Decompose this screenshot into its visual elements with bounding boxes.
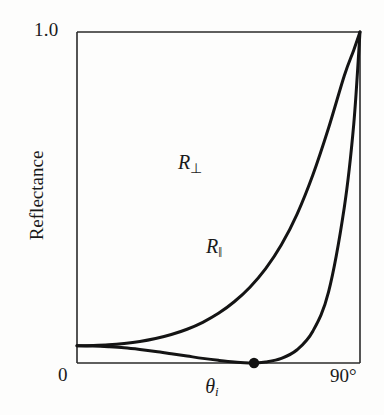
y-axis-tick-top: 1.0 <box>34 20 58 39</box>
y-axis-label: Reflectance <box>27 131 46 261</box>
r-par-subscript: ‖ <box>218 245 222 260</box>
r-perp-symbol: R <box>178 151 190 173</box>
curve-label-r-perpendicular: R⊥ <box>178 152 202 176</box>
x-axis-tick-right: 90° <box>330 366 357 385</box>
y-axis-tick-bottom: 0 <box>58 365 68 384</box>
curve-r-perpendicular <box>77 32 360 346</box>
r-perp-subscript: ⊥ <box>190 161 202 176</box>
plot-canvas <box>0 0 384 415</box>
x-axis-label: θi <box>182 376 242 398</box>
curve-label-r-parallel: R‖ <box>206 236 222 260</box>
reflectance-figure: 1.0 0 90° Reflectance θi R⊥ R‖ <box>0 0 384 415</box>
x-axis-label-subscript: i <box>215 384 219 399</box>
brewster-angle-marker <box>249 358 259 368</box>
r-par-symbol: R <box>206 235 218 257</box>
x-axis-label-symbol: θ <box>205 375 215 397</box>
